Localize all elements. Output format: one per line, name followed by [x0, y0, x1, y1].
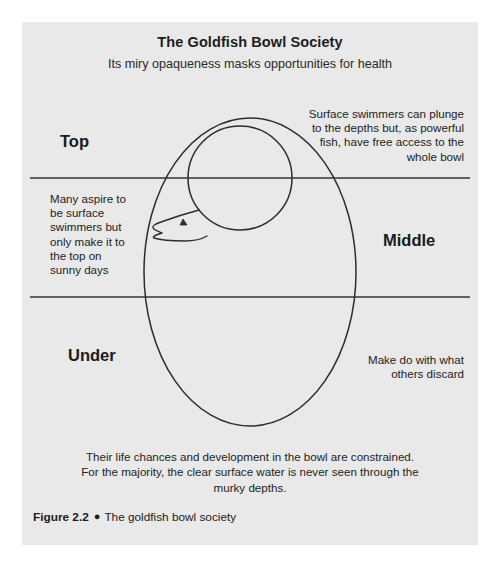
zone-label-top: Top — [60, 132, 89, 151]
figure-caption: Figure 2.2●The goldfish bowl society — [33, 510, 236, 524]
figure-caption-number: Figure 2.2 — [33, 510, 89, 524]
figure-subtitle: Its miry opaqueness masks opportunities … — [22, 57, 478, 71]
annotation-make-do: Make do with what others discard — [342, 353, 464, 381]
figure-caption-text: The goldfish bowl society — [104, 510, 236, 524]
bowl-outline — [144, 118, 356, 426]
figure-panel: The Goldfish Bowl Society Its miry opaqu… — [22, 22, 478, 545]
annotation-surface-swimmers: Surface swimmers can plunge to the depth… — [300, 107, 464, 164]
annotation-many-aspire: Many aspire to be surface swimmers but o… — [50, 192, 130, 277]
caption-bullet-icon: ● — [89, 510, 105, 522]
figure-title: The Goldfish Bowl Society — [22, 34, 478, 50]
zone-label-under: Under — [68, 346, 116, 365]
goldfish-head-icon — [153, 210, 207, 241]
annotation-life-chances: Their life chances and development in th… — [78, 449, 422, 495]
zone-label-middle: Middle — [383, 231, 435, 250]
fish-eye-icon — [180, 219, 187, 225]
